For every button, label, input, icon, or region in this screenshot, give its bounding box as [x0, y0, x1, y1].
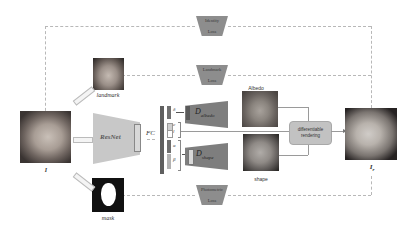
shape-decoder-input: [188, 149, 194, 165]
delta-to-albedo-decoder: [176, 112, 184, 113]
fc-arrow: [147, 139, 155, 140]
differentiable-renderer: differentiablerendering: [289, 121, 332, 145]
landmark-caption: landmark: [88, 92, 128, 98]
landmark-path-left: [122, 75, 195, 76]
mask-face-shape: [101, 183, 116, 206]
latent-beta-label: β: [173, 157, 176, 162]
latent-beta: [167, 154, 171, 169]
input-image-caption: I: [40, 167, 52, 173]
albedo-decoder-input: [186, 106, 190, 120]
output-image-caption: Ir: [362, 163, 382, 172]
albedo-to-renderer-h: [278, 107, 308, 108]
shape-geometry-image: [243, 134, 279, 171]
identity-path-left: [45, 26, 46, 116]
mask-caption: mask: [92, 215, 124, 221]
latent-alpha-label: α: [173, 143, 176, 148]
albedo-decoder-label: Dalbedo: [195, 107, 214, 118]
shape-caption: shape: [243, 176, 279, 182]
cl-bracket: [178, 122, 181, 138]
photometric-path-left: [122, 195, 195, 196]
latent-alpha: [167, 140, 171, 153]
latent-delta: [167, 106, 171, 119]
latent-vector-bar: [160, 106, 164, 174]
identity-path-top-right: [228, 26, 371, 27]
identity-path-right: [371, 26, 372, 108]
shape-to-renderer-h: [279, 155, 308, 156]
mask-image: [92, 178, 124, 212]
rendered-output-image: [345, 108, 397, 160]
landmark-path-right: [228, 75, 371, 76]
latent-delta-label: δ: [173, 107, 175, 112]
input-face-image: [20, 111, 71, 163]
photometric-path-right-vertical: [371, 176, 372, 195]
identity-loss: IdentityLoss: [196, 16, 228, 36]
identity-path-top-left: [45, 26, 195, 27]
shape-decoder-label: Dshape: [196, 149, 213, 160]
photometric-path-right: [228, 195, 371, 196]
fc-label: FC: [146, 129, 155, 137]
albedo-texture-image: [242, 91, 278, 127]
alpha-beta-bracket: [178, 140, 181, 171]
arrow-to-resnet: [73, 137, 93, 143]
latent-l-label: l: [173, 129, 174, 134]
photometric-loss: PhotometricLoss: [196, 185, 228, 205]
resnet-label: ResNet: [100, 133, 121, 141]
landmark-loss: LandmarkLoss: [196, 65, 228, 85]
resnet-output-layer: [134, 124, 141, 152]
cl-to-renderer: [181, 131, 291, 132]
landmark-face-image: [93, 58, 124, 90]
latent-c-label: c: [173, 122, 175, 127]
albedo-to-renderer-v: [308, 107, 309, 121]
